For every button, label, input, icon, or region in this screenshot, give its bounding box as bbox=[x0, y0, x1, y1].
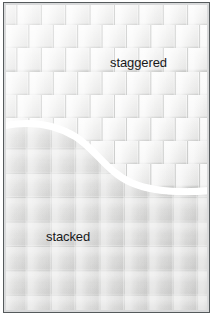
brick-row bbox=[4, 25, 209, 48]
brick-row bbox=[4, 95, 209, 118]
tile-layout-diagram: staggered stacked bbox=[0, 0, 213, 316]
label-stacked: stacked bbox=[46, 229, 90, 244]
brick-row bbox=[4, 72, 209, 95]
label-staggered: staggered bbox=[110, 55, 167, 70]
tile-field: staggered stacked bbox=[4, 3, 209, 312]
brick-row bbox=[4, 48, 209, 71]
brick-row bbox=[4, 3, 209, 25]
